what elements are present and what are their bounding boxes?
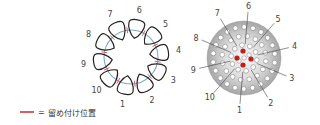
hole [213, 68, 218, 73]
teardrop-loop [139, 25, 164, 50]
loop-number-label: 4 [176, 46, 181, 55]
hole [220, 52, 225, 57]
red-center-dot [240, 62, 245, 67]
legend: = 留め付け位置 [20, 106, 96, 118]
hole [241, 87, 246, 92]
hole [251, 26, 256, 31]
teardrop-loop [149, 44, 170, 63]
hole [272, 51, 277, 56]
position-number-label: 3 [289, 74, 294, 83]
hole [236, 34, 241, 39]
hole [253, 50, 258, 55]
attachment-mark [127, 27, 128, 33]
hole [236, 67, 241, 72]
red-center-dot [234, 55, 239, 60]
loop-number-label: 9 [81, 60, 86, 69]
loop-number-label: 1 [120, 100, 125, 109]
teardrop-loop [98, 64, 123, 89]
position-number-label: 4 [292, 42, 297, 51]
hole [251, 65, 256, 70]
loop-number-label: 3 [171, 76, 176, 85]
hole [230, 62, 235, 67]
loop-number-label: 8 [86, 30, 91, 39]
attachment-mark [155, 61, 161, 62]
loop-ring-diagram: 12345678910 [81, 6, 181, 110]
loop-number-label: 5 [163, 20, 168, 29]
hole [244, 68, 249, 73]
hole [223, 44, 228, 49]
hole [218, 35, 223, 40]
hole [254, 58, 259, 63]
hole [259, 30, 264, 35]
position-number-label: 8 [194, 34, 199, 43]
hole [230, 74, 235, 79]
hole [247, 44, 252, 49]
hole [218, 76, 223, 81]
teardrop-loop [126, 18, 145, 39]
hole [272, 60, 277, 65]
hole [225, 82, 230, 87]
hole [242, 56, 246, 60]
attachment-mark-swatch [20, 111, 34, 113]
hole [260, 67, 265, 72]
hole [270, 43, 275, 48]
position-number-label: 5 [276, 15, 281, 24]
teardrop-loop [117, 74, 136, 95]
position-number-label: 2 [268, 99, 273, 108]
position-number-label: 1 [237, 106, 242, 115]
position-number-label: 10 [205, 93, 215, 102]
loop-number-label: 6 [137, 6, 142, 15]
red-center-dot [248, 56, 253, 61]
hole [239, 43, 244, 48]
hole [265, 35, 270, 40]
position-number-label: 7 [215, 9, 220, 18]
attachment-mark [101, 52, 107, 53]
position-number-label: 9 [191, 66, 196, 75]
hole [247, 77, 252, 82]
red-center-dot [240, 48, 245, 53]
disc-diagram: 12345678910 [191, 2, 297, 115]
legend-equals: = [38, 108, 45, 117]
hole [211, 60, 216, 65]
hole [253, 37, 258, 42]
hole [233, 85, 238, 90]
loop-number-label: 2 [149, 96, 154, 105]
hole [242, 25, 247, 30]
teardrop-loop [92, 52, 113, 71]
hole [259, 43, 264, 48]
hole [211, 51, 216, 56]
loop-number-label: 7 [107, 10, 112, 19]
hole [233, 26, 238, 31]
position-number-label: 6 [246, 2, 251, 11]
hole [224, 69, 229, 74]
hole [265, 76, 270, 81]
hole [263, 59, 268, 64]
legend-label: 留め付け位置 [48, 107, 96, 118]
loop-number-label: 10 [91, 86, 101, 95]
hole [232, 46, 237, 51]
hole [229, 54, 234, 59]
attachment-mark [134, 81, 135, 87]
hole [250, 85, 255, 90]
